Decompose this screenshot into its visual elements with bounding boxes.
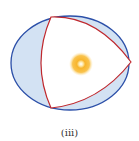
figure-label: (iii) (0, 127, 139, 139)
sun-icon (69, 52, 93, 76)
orbit-diagram (0, 0, 139, 141)
